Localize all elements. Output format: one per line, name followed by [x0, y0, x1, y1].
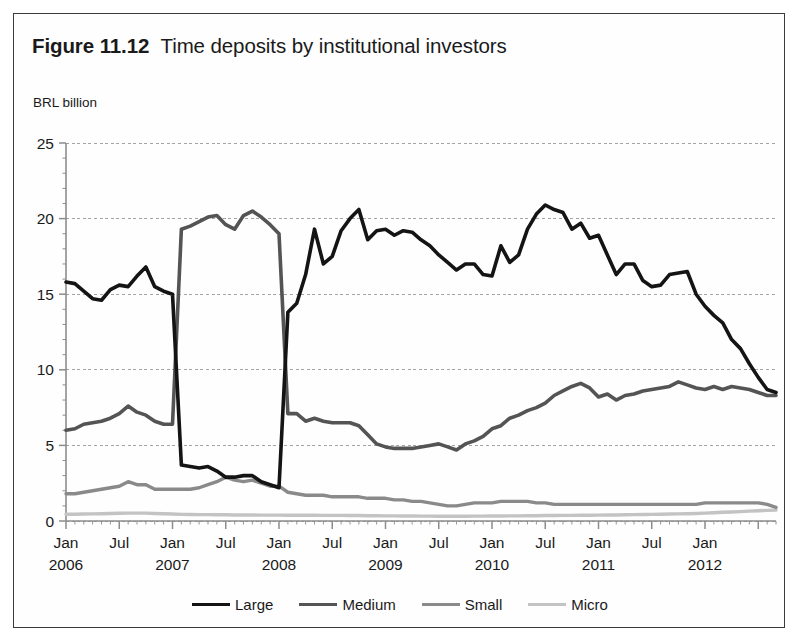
series-line-medium	[66, 211, 776, 450]
x-axis-tick-label-month: Jul	[109, 534, 129, 551]
legend-label-large: Large	[235, 597, 273, 612]
x-axis-tick-label-month: Jul	[535, 534, 555, 551]
legend-entry-medium[interactable]: Medium	[299, 597, 395, 612]
legend-entry-micro[interactable]: Micro	[528, 597, 608, 612]
legend-swatch-micro	[528, 603, 566, 606]
x-axis-tick-label-year: 2010	[475, 556, 510, 573]
line-chart-plot: 0510152025 Jan2006JulJan2007JulJan2008Ju…	[14, 14, 786, 599]
x-axis: Jan2006JulJan2007JulJan2008JulJan2009Jul…	[49, 521, 776, 573]
legend-entry-small[interactable]: Small	[422, 597, 503, 612]
x-axis-tick-label-month: Jan	[54, 534, 79, 551]
x-axis-tick-label-month: Jan	[480, 534, 505, 551]
x-axis-tick-label-month: Jan	[693, 534, 718, 551]
x-axis-tick-label-month: Jan	[267, 534, 292, 551]
y-axis-tick-label: 25	[37, 135, 54, 152]
x-axis-tick-label-year: 2011	[582, 556, 615, 573]
legend-swatch-large	[192, 603, 230, 607]
x-axis-tick-label-month: Jul	[429, 534, 449, 551]
x-axis-tick-label-year: 2007	[155, 556, 189, 573]
chart-legend: LargeMediumSmallMicro	[14, 597, 786, 612]
x-axis-tick-label-year: 2006	[49, 556, 83, 573]
x-axis-tick-label-month: Jul	[322, 534, 342, 551]
legend-label-medium: Medium	[342, 597, 395, 612]
x-axis-tick-label-month: Jul	[642, 534, 662, 551]
series-line-small	[66, 477, 776, 507]
y-axis-tick-label: 15	[37, 286, 54, 303]
figure-container: Figure 11.12 Time deposits by institutio…	[13, 13, 785, 628]
legend-swatch-medium	[299, 603, 337, 607]
x-axis-tick-label-month: Jan	[373, 534, 398, 551]
x-axis-tick-label-month: Jan	[586, 534, 611, 551]
x-axis-tick-label-year: 2012	[688, 556, 722, 573]
y-axis-tick-label: 20	[37, 210, 55, 227]
x-axis-tick-label-month: Jan	[160, 534, 185, 551]
gridlines	[66, 143, 776, 521]
y-axis-tick-label: 0	[45, 513, 54, 530]
y-axis-tick-label: 10	[37, 361, 55, 378]
series-line-micro	[66, 510, 776, 516]
x-axis-tick-label-year: 2009	[368, 556, 402, 573]
legend-swatch-small	[422, 603, 460, 606]
y-axis-tick-label: 5	[45, 437, 54, 454]
legend-label-small: Small	[465, 597, 503, 612]
y-axis: 0510152025	[37, 135, 66, 530]
data-series-group	[66, 205, 776, 516]
x-axis-tick-label-month: Jul	[216, 534, 236, 551]
legend-entry-large[interactable]: Large	[192, 597, 273, 612]
x-axis-tick-label-year: 2008	[262, 556, 296, 573]
legend-label-micro: Micro	[571, 597, 608, 612]
